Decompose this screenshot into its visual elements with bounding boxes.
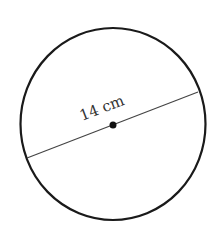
center-point — [110, 122, 117, 129]
diameter-label: 14 cm — [77, 91, 127, 124]
circle-diagram: 14 cm — [0, 0, 214, 230]
diagram-canvas: 14 cm — [0, 0, 214, 230]
